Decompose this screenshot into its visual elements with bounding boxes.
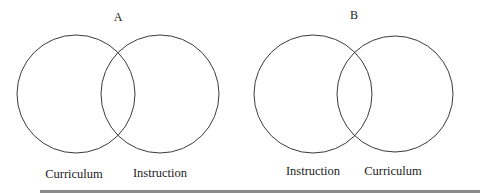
panel-b-left-label: Instruction xyxy=(286,164,341,178)
panel-b-label: B xyxy=(350,8,358,22)
panel-b: B Instruction Curriculum xyxy=(254,8,453,178)
panel-a-label: A xyxy=(114,10,123,24)
bottom-border-rule xyxy=(40,190,480,193)
panel-a-right-label: Instruction xyxy=(133,166,188,180)
panel-b-right-circle xyxy=(337,36,453,152)
venn-diagrams: A Curriculum Instruction B Instruction C… xyxy=(0,0,480,193)
panel-a: A Curriculum Instruction xyxy=(17,10,219,181)
panel-b-right-label: Curriculum xyxy=(364,164,422,178)
panel-a-left-label: Curriculum xyxy=(45,167,103,181)
